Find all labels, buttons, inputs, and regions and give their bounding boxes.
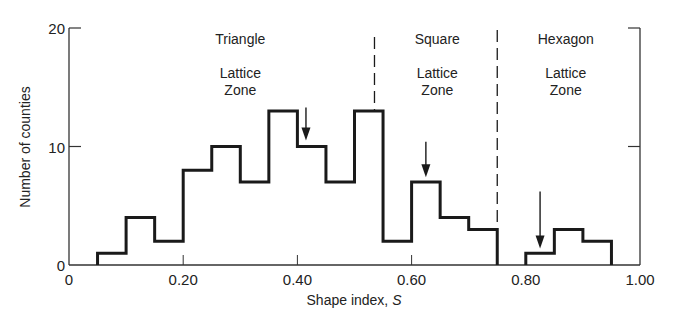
zone-subtitle-lattice: Lattice <box>417 65 458 81</box>
y-axis-title: Number of counties <box>17 86 33 207</box>
x-tick-label: 0.60 <box>397 271 426 288</box>
x-tick-label: 1.00 <box>625 271 654 288</box>
chart-canvas: 0102000.200.400.600.801.00 TriangleLatti… <box>0 0 673 325</box>
zone-subtitle-zone: Zone <box>550 82 582 98</box>
zone-subtitle-lattice: Lattice <box>220 65 261 81</box>
zone-subtitle-lattice: Lattice <box>545 65 586 81</box>
mean-arrows <box>301 107 544 248</box>
x-tick-label: 0.80 <box>511 271 540 288</box>
zone-subtitle-zone: Zone <box>421 82 453 98</box>
x-tick-label: 0.40 <box>283 271 312 288</box>
zone-title: Square <box>415 31 460 47</box>
arrow-down-icon <box>421 164 430 177</box>
histogram-chart: 0102000.200.400.600.801.00 TriangleLatti… <box>0 0 673 325</box>
y-tick-label: 0 <box>57 257 65 274</box>
y-tick-label: 10 <box>48 139 65 156</box>
zone-subtitle-zone: Zone <box>224 82 256 98</box>
x-tick-label: 0 <box>65 271 73 288</box>
zone-labels: TriangleLatticeZoneSquareLatticeZoneHexa… <box>215 31 594 98</box>
y-tick-label: 20 <box>48 20 65 37</box>
arrow-down-icon <box>301 128 310 141</box>
x-tick-label: 0.20 <box>169 271 198 288</box>
zone-title: Hexagon <box>538 31 594 47</box>
zone-title: Triangle <box>215 31 265 47</box>
axes: 0102000.200.400.600.801.00 <box>48 20 654 288</box>
x-axis-title: Shape index, S <box>307 292 403 308</box>
histogram-step-line <box>98 111 498 265</box>
histogram-step-line <box>526 229 612 265</box>
histogram-outline <box>98 111 612 265</box>
arrow-down-icon <box>536 235 545 248</box>
